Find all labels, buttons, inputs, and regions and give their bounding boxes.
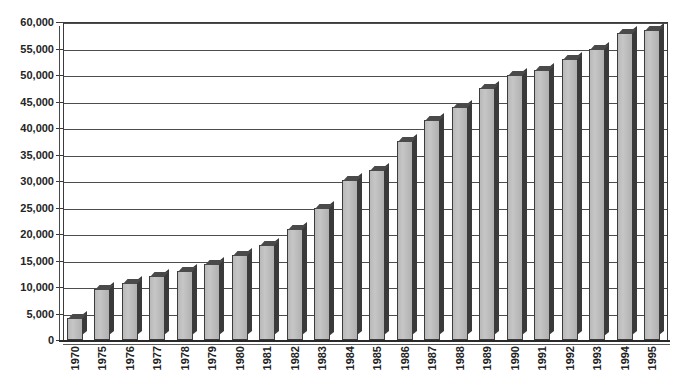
y-axis: 05,00010,00015,00020,00025,00030,00035,0… — [0, 0, 54, 386]
x-axis-tick-label: 1970 — [69, 346, 81, 370]
y-axis-tick-label: 45,000 — [20, 96, 54, 108]
y-axis-tick-label: 60,000 — [20, 16, 54, 28]
x-axis-tick-label: 1985 — [371, 346, 383, 370]
y-axis-tick-label: 30,000 — [20, 175, 54, 187]
y-axis-tick-label: 50,000 — [20, 69, 54, 81]
x-axis-tick-label: 1992 — [564, 346, 576, 370]
x-axis-tick-label: 1978 — [179, 346, 191, 370]
bar-side-face — [274, 238, 279, 335]
bar — [314, 208, 330, 341]
bar-side-face — [494, 81, 499, 335]
bar — [452, 107, 468, 340]
x-axis-tick-label: 1983 — [316, 346, 328, 370]
bar-side-face — [164, 269, 169, 335]
bar-side-face — [412, 134, 417, 335]
bar-side-face — [632, 26, 637, 335]
x-axis-tick-label: 1977 — [151, 346, 163, 370]
bar-side-face — [109, 282, 114, 335]
y-axis-tick-mark — [56, 22, 63, 23]
bar — [589, 49, 605, 341]
bar-side-face — [357, 173, 362, 335]
y-axis-tick-label: 10,000 — [20, 281, 54, 293]
x-axis-tick-label: 1991 — [536, 346, 548, 370]
x-axis-tick-label: 1993 — [591, 346, 603, 370]
bar — [507, 75, 523, 340]
x-axis-tick-label: 1980 — [234, 346, 246, 370]
x-axis-tick-label: 1976 — [124, 346, 136, 370]
y-axis-tick-label: 0 — [48, 334, 54, 346]
y-axis-tick-label: 5,000 — [26, 308, 54, 320]
x-axis-tick-label: 1989 — [481, 346, 493, 370]
x-axis: 1970197519761977197819791980198119821983… — [63, 344, 668, 386]
bar-side-face — [467, 100, 472, 335]
bar-side-face — [137, 276, 142, 335]
bar — [67, 318, 83, 340]
x-axis-tick-label: 1979 — [206, 346, 218, 370]
bar-side-face — [549, 63, 554, 335]
bar-side-face — [329, 201, 334, 335]
x-axis-tick-label: 1986 — [399, 346, 411, 370]
bar — [562, 59, 578, 340]
x-axis-tick-label: 1981 — [261, 346, 273, 370]
bar — [342, 180, 358, 340]
bar-side-face — [604, 42, 609, 335]
bar — [287, 229, 303, 340]
bar — [204, 264, 220, 340]
x-axis-tick-label: 1994 — [619, 346, 631, 370]
x-axis-tick-label: 1982 — [289, 346, 301, 370]
bar — [397, 141, 413, 340]
x-axis-tick-label: 1984 — [344, 346, 356, 370]
bar — [94, 289, 110, 340]
x-axis-tick-label: 1988 — [454, 346, 466, 370]
x-axis-baseline — [59, 340, 670, 342]
bar — [369, 170, 385, 340]
bar — [122, 283, 138, 340]
bar-chart: 05,00010,00015,00020,00025,00030,00035,0… — [0, 0, 686, 386]
x-axis-tick-label: 1975 — [96, 346, 108, 370]
y-axis-tick-label: 20,000 — [20, 228, 54, 240]
bars-layer — [63, 22, 668, 340]
bar-side-face — [247, 248, 252, 335]
y-axis-tick-label: 35,000 — [20, 149, 54, 161]
bar-side-face — [302, 222, 307, 335]
bar-side-face — [384, 163, 389, 335]
axis-depth-line — [59, 26, 60, 342]
y-axis-tick-label: 25,000 — [20, 202, 54, 214]
x-axis-tick-label: 1995 — [646, 346, 658, 370]
y-axis-tick-label: 40,000 — [20, 122, 54, 134]
x-axis-tick-label: 1990 — [509, 346, 521, 370]
bar — [149, 276, 165, 340]
bar — [177, 271, 193, 340]
bar — [259, 245, 275, 340]
bar — [424, 120, 440, 340]
x-axis-tick-label: 1987 — [426, 346, 438, 370]
y-axis-tick-label: 55,000 — [20, 43, 54, 55]
bar — [232, 255, 248, 340]
bar-side-face — [439, 113, 444, 335]
bar — [644, 30, 660, 340]
bar-side-face — [192, 264, 197, 335]
bar-side-face — [219, 257, 224, 335]
bar — [479, 88, 495, 340]
bar-side-face — [522, 68, 527, 335]
y-axis-tick-label: 15,000 — [20, 255, 54, 267]
bar — [617, 33, 633, 340]
bar-side-face — [659, 23, 664, 335]
bar-side-face — [577, 52, 582, 335]
bar — [534, 70, 550, 340]
